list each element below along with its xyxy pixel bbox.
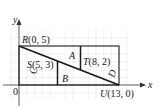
x-axis-label: x — [147, 79, 153, 90]
coordinate-diagram: y x 0 R(0, 5) S(5, 3) T(8, 2) U(13, 0) A… — [0, 0, 162, 110]
origin-label: 0 — [13, 86, 18, 97]
point-U-label: U(13, 0) — [100, 88, 134, 100]
x-axis-arrow-icon — [140, 83, 146, 88]
y-axis-label: y — [12, 14, 18, 25]
point-R-label: R(0, 5) — [21, 34, 50, 46]
region-B-label: B — [62, 73, 68, 84]
region-C-label: C — [28, 67, 39, 74]
region-D-label: D — [105, 67, 118, 79]
region-A-label: A — [68, 50, 76, 61]
point-T-label: T(8, 2) — [83, 56, 110, 68]
